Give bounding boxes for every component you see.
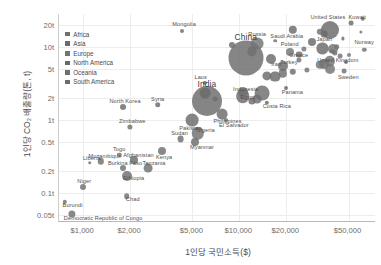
scatter-point[interactable] (317, 43, 328, 54)
x-tick-label: $2,000 (118, 226, 141, 235)
legend-item-label: Africa (73, 31, 89, 38)
x-tick-label: $20,000 (272, 226, 299, 235)
point-label: Sudan (171, 130, 188, 136)
legend: AfricaAsiaEuropeNorth AmericaOceaniaSout… (65, 30, 114, 87)
scatter-point[interactable] (213, 97, 218, 102)
point-label: Egypt (240, 94, 255, 100)
legend-item-label: South America (73, 78, 114, 85)
point-label: Mozambique (88, 153, 121, 159)
point-label: Poland (281, 41, 299, 47)
y-tick-label: 2t (8, 93, 54, 102)
point-label: Turkey (280, 59, 298, 65)
point-label: Syria (151, 96, 164, 102)
point-label: Democratic Republic of Congo (64, 215, 143, 221)
y-tick-label: 5t (8, 64, 54, 73)
scatter-point[interactable] (302, 46, 307, 51)
point-label: India (198, 79, 217, 89)
legend-item[interactable]: Asia (65, 40, 114, 48)
y-tick-label: 20t (8, 20, 54, 29)
scatter-point[interactable] (359, 30, 362, 33)
point-label: Togo (113, 146, 126, 152)
gridline-horizontal (59, 142, 375, 143)
legend-item[interactable]: Africa (65, 30, 114, 38)
chart-figure: 1인당 CO₂ 배출량(톤, t) 1인당 국민소득($) 20t10t5t2t… (0, 0, 381, 265)
legend-item[interactable]: South America (65, 78, 114, 86)
point-label: Myanmar (190, 144, 214, 150)
point-label: United States (310, 14, 345, 20)
point-label: Japan (316, 36, 332, 42)
point-label: Nigeria (196, 127, 214, 133)
point-label: Burundi (63, 202, 83, 208)
scatter-point[interactable] (229, 42, 235, 48)
scatter-point[interactable] (304, 67, 309, 72)
point-label: Panama (282, 89, 303, 95)
point-label: Afghanistan (123, 152, 154, 158)
point-label: Zimbabwe (119, 118, 146, 124)
point-label: Tanzania (142, 160, 165, 166)
scatter-point[interactable] (88, 161, 92, 165)
plot-area: KuwaitUnited StatesMongoliaRussiaNorwayJ… (58, 14, 375, 222)
point-label: Norway (354, 39, 374, 45)
y-axis-ticks: 20t10t5t2t1t0.5t0.2t0.1t0.05t (4, 0, 54, 265)
legend-item[interactable]: North America (65, 59, 114, 67)
legend-swatch-icon (65, 70, 70, 75)
scatter-point[interactable] (199, 88, 210, 99)
point-label: Saudi Arabia (270, 33, 303, 39)
scatter-point[interactable] (177, 135, 184, 142)
legend-item[interactable]: Oceania (65, 68, 114, 76)
scatter-point[interactable] (334, 44, 340, 50)
gridline-horizontal (59, 193, 375, 194)
scatter-point[interactable] (128, 124, 133, 129)
point-label: Laos (194, 74, 207, 80)
point-label: Ethiopia (123, 175, 144, 181)
scatter-point[interactable] (325, 64, 335, 74)
point-label: North Korea (109, 98, 140, 104)
legend-item-label: North America (73, 59, 113, 66)
scatter-point[interactable] (341, 37, 344, 40)
point-label: Sweden (338, 74, 359, 80)
x-tick-label: $5,000 (180, 226, 203, 235)
scatter-point[interactable] (308, 38, 316, 46)
scatter-point[interactable] (120, 104, 126, 110)
legend-swatch-icon (65, 41, 70, 46)
point-label: Kenya (156, 154, 172, 160)
scatter-point[interactable] (342, 69, 347, 74)
scatter-point[interactable] (349, 21, 354, 26)
legend-item-label: Europe (73, 50, 93, 57)
legend-swatch-icon (65, 51, 70, 56)
point-label: Greece (289, 52, 308, 58)
point-label: Indonesia (233, 86, 258, 92)
point-label: El Salvador (219, 122, 249, 128)
gridline-vertical (349, 14, 350, 221)
scatter-point[interactable] (274, 39, 278, 43)
scatter-point[interactable] (180, 29, 184, 33)
legend-item-label: Asia (73, 40, 85, 47)
legend-swatch-icon (65, 32, 70, 37)
point-label: Burkina Faso (108, 160, 142, 166)
x-tick-label: $50,000 (334, 226, 361, 235)
legend-item-label: Oceania (73, 69, 96, 76)
y-tick-label: 0.05t (8, 210, 54, 219)
x-tick-label: $10,000 (225, 226, 252, 235)
scatter-point[interactable] (80, 184, 86, 190)
scatter-point[interactable] (362, 48, 366, 52)
legend-item[interactable]: Europe (65, 49, 114, 57)
scatter-point[interactable] (155, 102, 161, 108)
y-tick-label: 0.2t (8, 166, 54, 175)
point-label: Niger (77, 178, 91, 184)
legend-swatch-icon (65, 80, 70, 85)
scatter-point[interactable] (290, 69, 296, 75)
x-axis-title: 1인당 국민소득($) (58, 245, 378, 257)
legend-swatch-icon (65, 61, 70, 66)
point-label: Chad (126, 196, 140, 202)
point-label: China (235, 32, 257, 42)
point-label: Kuwait (348, 14, 365, 20)
point-label: Costa Rica (263, 103, 291, 109)
x-tick-label: $1,000 (71, 226, 94, 235)
point-label: Mongolia (172, 21, 196, 27)
y-tick-label: 0.1t (8, 188, 54, 197)
scatter-point[interactable] (330, 49, 334, 53)
y-tick-label: 1t (8, 115, 54, 124)
point-label: United Kingdom (317, 57, 358, 63)
y-tick-label: 10t (8, 42, 54, 51)
